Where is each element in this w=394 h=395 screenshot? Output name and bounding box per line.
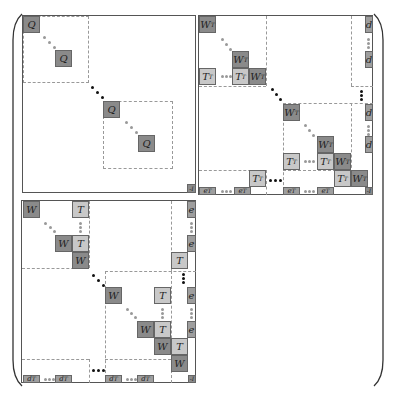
matrix-cell-d-transpose: dT — [23, 375, 40, 383]
matrix-cell-e-transpose: eT — [199, 187, 216, 195]
cell-label: d — [366, 108, 372, 118]
ellipsis-dot — [367, 38, 370, 41]
matrix-cell-w-transpose: WT — [232, 51, 249, 68]
matrix-cell-t-transpose: TT — [334, 170, 351, 187]
matrix-cell-w-transpose: WT — [283, 104, 300, 121]
dashed-divider — [105, 359, 171, 360]
cell-superscript: T — [243, 188, 247, 194]
matrix-cell-t: T — [154, 321, 171, 338]
matrix-cell-t: T — [171, 252, 188, 269]
ellipsis-dot — [130, 378, 133, 381]
matrix-cell-d: d — [365, 51, 373, 68]
matrix-cell-q: Q — [138, 135, 155, 152]
ellipsis-dot — [161, 316, 164, 319]
cell-label: W — [75, 256, 85, 266]
ellipsis-dot — [49, 226, 52, 229]
ellipsis-dot — [182, 281, 185, 284]
cell-superscript: T — [64, 376, 68, 382]
cell-label: Q — [107, 105, 115, 115]
matrix-cell-w: W — [137, 321, 154, 338]
cell-label: T — [176, 256, 183, 266]
corner-cell-minus-identity: -I — [188, 375, 196, 383]
cell-label: -I — [367, 188, 371, 194]
cell-label: d — [366, 55, 372, 65]
cell-label: W — [318, 140, 328, 150]
bottom-left-block: W T W T W e e T W T W T W T W e e dT dT … — [21, 200, 196, 383]
ellipsis-dot — [221, 75, 224, 78]
corner-cell-minus-identity: -I — [187, 184, 196, 193]
cell-label: Q — [59, 54, 67, 64]
cell-label: W — [174, 359, 184, 369]
matrix-cell-d-transpose: dT — [137, 375, 154, 383]
ellipsis-dot — [367, 42, 370, 45]
ellipsis-dot — [44, 378, 47, 381]
ellipsis-dot — [130, 126, 133, 129]
ellipsis-dot — [161, 312, 164, 315]
matrix-cell-w: W — [105, 287, 122, 304]
ellipsis-dot — [269, 179, 272, 182]
matrix-cell-t-transpose: TT — [199, 68, 216, 85]
dashed-divider — [199, 86, 266, 87]
ellipsis-dot — [101, 96, 104, 99]
matrix-cell-w: W — [72, 252, 89, 269]
ellipsis-dot — [221, 190, 224, 193]
ellipsis-dot — [304, 190, 307, 193]
ellipsis-dot — [367, 125, 370, 128]
matrix-cell-t-transpose: TT — [317, 153, 334, 170]
cell-superscript: T — [244, 57, 248, 63]
matrix-cell-w-transpose: WT — [334, 153, 351, 170]
matrix-cell-q: Q — [23, 16, 40, 33]
ellipsis-dot — [225, 75, 228, 78]
cell-superscript: T — [293, 159, 297, 165]
ellipsis-dot — [43, 36, 46, 39]
matrix-cell-t: T — [72, 201, 89, 218]
matrix-cell-w: W — [154, 338, 171, 355]
ellipsis-dot — [304, 160, 307, 163]
ellipsis-dot — [225, 43, 228, 46]
cell-label: -I — [190, 376, 194, 382]
ellipsis-dot — [190, 308, 193, 311]
ellipsis-dot — [161, 308, 164, 311]
ellipsis-dot — [360, 90, 363, 93]
dashed-divider — [22, 359, 89, 360]
cell-label: e — [189, 325, 195, 335]
ellipsis-dot — [190, 316, 193, 319]
matrix-cell-e: e — [187, 235, 196, 252]
cell-superscript: T — [329, 142, 333, 148]
top-right-block: WT WT TT TT WT d d WT WT TT TT WT TT WT … — [198, 15, 373, 195]
ellipsis-dot — [312, 160, 315, 163]
cell-label: W — [250, 72, 260, 82]
cell-superscript: T — [242, 74, 246, 80]
cell-superscript: T — [261, 74, 265, 80]
cell-superscript: T — [363, 176, 367, 182]
ellipsis-dot — [312, 134, 315, 137]
cell-label: T — [77, 239, 84, 249]
ellipsis-dot — [102, 369, 105, 372]
ellipsis-dot — [367, 129, 370, 132]
ellipsis-dot — [79, 226, 82, 229]
cell-label: T — [202, 72, 209, 82]
cell-label: T — [320, 157, 327, 167]
ellipsis-dot — [44, 222, 47, 225]
ellipsis-dot — [91, 86, 94, 89]
cell-superscript: T — [32, 376, 36, 382]
cell-superscript: T — [208, 188, 212, 194]
ellipsis-dot — [271, 88, 274, 91]
matrix-cell-t-transpose: TT — [232, 68, 249, 85]
ellipsis-dot — [79, 230, 82, 233]
ellipsis-dot — [360, 94, 363, 97]
ellipsis-dot — [312, 190, 315, 193]
ellipsis-dot — [97, 369, 100, 372]
cell-label: T — [252, 174, 259, 184]
cell-superscript: T — [209, 74, 213, 80]
ellipsis-dot — [125, 121, 128, 124]
dashed-divider — [105, 271, 196, 272]
cell-label: Q — [142, 139, 150, 149]
cell-label: T — [159, 291, 166, 301]
ellipsis-dot — [135, 131, 138, 134]
matrix-cell-e: e — [187, 321, 196, 338]
matrix-cell-w-transpose: WT — [249, 68, 266, 85]
matrix-cell-t: T — [154, 287, 171, 304]
matrix-cell-e-transpose: eT — [234, 187, 251, 195]
ellipsis-dot — [96, 91, 99, 94]
